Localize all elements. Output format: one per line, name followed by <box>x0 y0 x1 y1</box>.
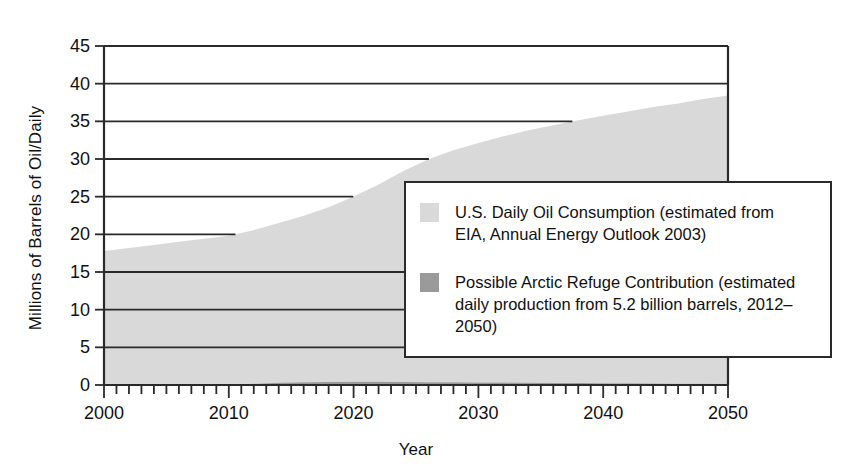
x-axis-title: Year <box>104 440 728 460</box>
y-tick-label: 35 <box>44 112 90 130</box>
x-tick-label: 2020 <box>309 404 399 422</box>
legend-swatch-consumption-icon <box>420 203 439 222</box>
legend-item-consumption: U.S. Daily Oil Consumption (estimated fr… <box>420 201 807 245</box>
y-tick-label: 10 <box>44 301 90 319</box>
y-tick-label: 45 <box>44 37 90 55</box>
y-tick-label: 30 <box>44 150 90 168</box>
x-tick-label: 2040 <box>558 404 648 422</box>
legend-item-arctic: Possible Arctic Refuge Contribution (est… <box>420 271 807 337</box>
x-tick-label: 2000 <box>59 404 149 422</box>
y-axis-title: Millions of Barrels of Oil/Daily <box>26 48 46 388</box>
y-tick-label: 20 <box>44 225 90 243</box>
y-tick-label: 25 <box>44 188 90 206</box>
y-tick-label: 5 <box>44 338 90 356</box>
legend-swatch-arctic-icon <box>420 273 439 292</box>
y-tick-marks <box>95 46 104 385</box>
x-tick-marks <box>104 385 728 398</box>
legend-label-arctic: Possible Arctic Refuge Contribution (est… <box>455 271 807 337</box>
y-tick-label: 15 <box>44 263 90 281</box>
x-tick-label: 2030 <box>433 404 523 422</box>
x-tick-label: 2010 <box>184 404 274 422</box>
y-tick-label: 0 <box>44 376 90 394</box>
x-tick-label: 2050 <box>683 404 773 422</box>
chart-legend: U.S. Daily Oil Consumption (estimated fr… <box>404 181 832 358</box>
area-chart: Millions of Barrels of Oil/Daily Year 05… <box>0 0 866 474</box>
y-tick-label: 40 <box>44 75 90 93</box>
legend-label-consumption: U.S. Daily Oil Consumption (estimated fr… <box>455 201 807 245</box>
